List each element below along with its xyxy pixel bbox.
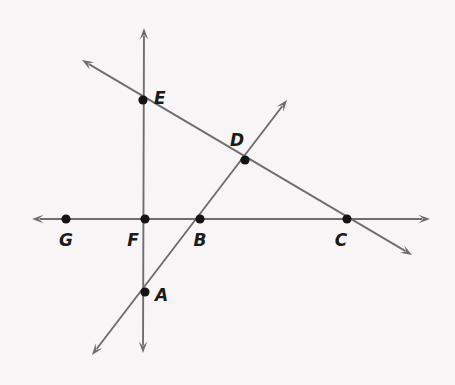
point-c — [342, 214, 351, 223]
point-label-b: B — [194, 230, 207, 250]
point-label-d: D — [230, 130, 244, 150]
point-e — [138, 95, 147, 104]
point-b — [195, 214, 204, 223]
point-label-f: F — [127, 230, 139, 250]
point-label-c: C — [335, 230, 348, 250]
geometry-diagram-canvas: ABCDEFG — [0, 0, 455, 385]
vertical-line-EFA-segment — [143, 36, 144, 344]
point-label-a: A — [153, 285, 168, 305]
point-a — [140, 287, 149, 296]
point-label-g: G — [59, 230, 73, 250]
geometry-figure: ABCDEFG — [0, 0, 455, 385]
point-g — [61, 214, 70, 223]
point-d — [240, 155, 249, 164]
point-label-e: E — [154, 88, 166, 108]
diagram-background — [0, 0, 455, 385]
point-f — [140, 214, 149, 223]
